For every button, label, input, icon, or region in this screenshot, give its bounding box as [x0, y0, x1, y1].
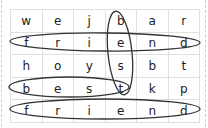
- grid-cell[interactable]: e: [106, 100, 138, 123]
- grid-cell[interactable]: f: [11, 100, 43, 123]
- grid-cell[interactable]: p: [169, 78, 201, 101]
- grid-cell[interactable]: r: [43, 33, 75, 56]
- grid-cell[interactable]: y: [74, 55, 106, 78]
- grid-cell[interactable]: b: [11, 78, 43, 101]
- grid-cell[interactable]: b: [106, 10, 138, 33]
- grid-cell[interactable]: s: [106, 55, 138, 78]
- word-search-grid: wejbarfriendhoysbtbestkpfriend: [10, 9, 200, 123]
- grid-cell[interactable]: e: [43, 10, 75, 33]
- grid-cell[interactable]: e: [106, 33, 138, 56]
- grid-cell[interactable]: s: [74, 78, 106, 101]
- grid-cell[interactable]: o: [43, 55, 75, 78]
- grid-cell[interactable]: t: [169, 55, 201, 78]
- grid-cell[interactable]: b: [137, 55, 169, 78]
- grid-cell[interactable]: i: [74, 33, 106, 56]
- grid-cell[interactable]: r: [43, 100, 75, 123]
- grid-cell[interactable]: n: [137, 100, 169, 123]
- grid-cell[interactable]: d: [169, 100, 201, 123]
- grid-cell[interactable]: h: [11, 55, 43, 78]
- grid-cell[interactable]: i: [74, 100, 106, 123]
- grid-cell[interactable]: w: [11, 10, 43, 33]
- grid-cell[interactable]: d: [169, 33, 201, 56]
- grid-cell[interactable]: k: [137, 78, 169, 101]
- grid-cell[interactable]: e: [43, 78, 75, 101]
- grid-cell[interactable]: n: [137, 33, 169, 56]
- grid-cell[interactable]: t: [106, 78, 138, 101]
- grid-cell[interactable]: a: [137, 10, 169, 33]
- grid-cell[interactable]: f: [11, 33, 43, 56]
- grid-cell[interactable]: j: [74, 10, 106, 33]
- grid-cell[interactable]: r: [169, 10, 201, 33]
